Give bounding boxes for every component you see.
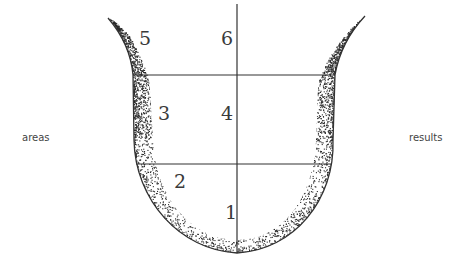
region-label-3: 3 xyxy=(158,102,170,124)
region-label-5: 5 xyxy=(139,27,151,49)
region-label-1: 1 xyxy=(225,201,237,223)
cup-diagram: 5 6 3 4 2 1 xyxy=(0,0,471,266)
results-label: results xyxy=(409,133,443,143)
areas-label: areas xyxy=(22,133,50,143)
region-label-2: 2 xyxy=(174,170,186,192)
region-label-6: 6 xyxy=(221,27,233,49)
region-label-4: 4 xyxy=(221,102,233,124)
